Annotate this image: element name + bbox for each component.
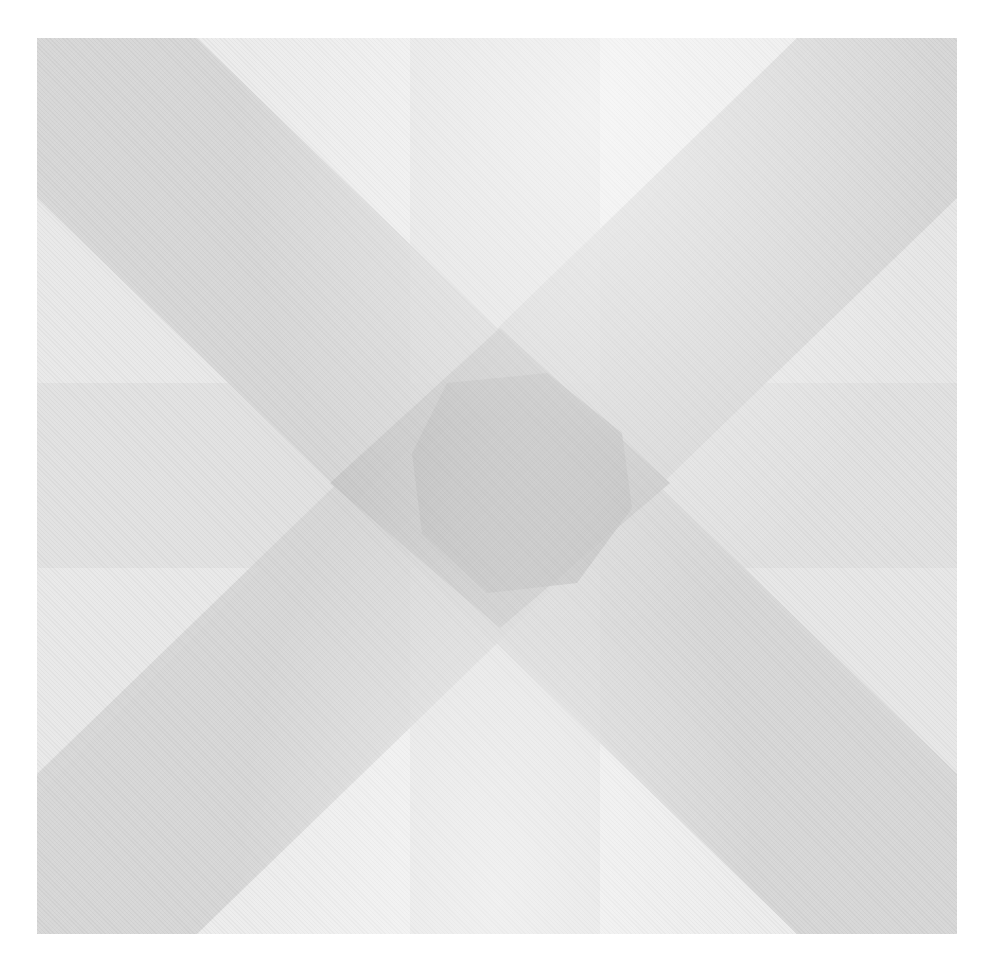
- artwork-canvas: [37, 38, 957, 934]
- geometric-composition: [37, 38, 957, 934]
